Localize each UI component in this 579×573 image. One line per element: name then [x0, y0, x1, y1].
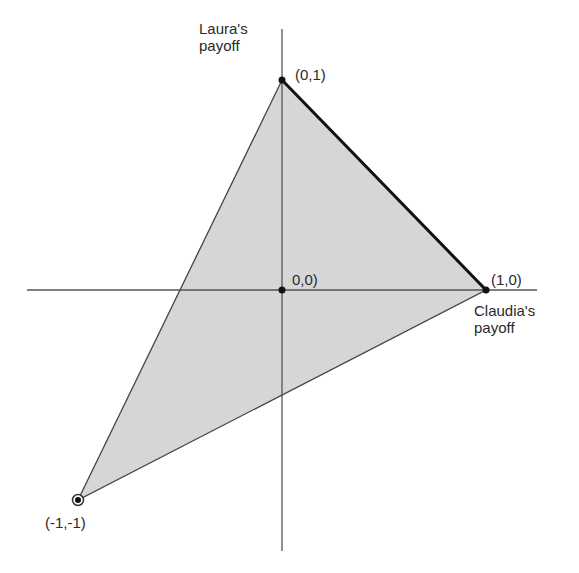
point-minus1-minus1	[75, 497, 81, 503]
x-axis-label-line1: Claudia's	[474, 302, 535, 319]
y-axis-label-line1: Laura's	[199, 20, 248, 37]
point-label-1-0: (1,0)	[491, 271, 522, 288]
point-label-origin: 0,0)	[292, 271, 318, 288]
point-label-minus1-minus1: (-1,-1)	[45, 514, 86, 531]
point-1-0	[483, 287, 490, 294]
point-label-0-1: (0,1)	[295, 66, 326, 83]
point-0-1	[279, 77, 286, 84]
point-origin	[279, 287, 286, 294]
y-axis-label-line2: payoff	[199, 37, 240, 54]
x-axis-label-line2: payoff	[474, 319, 515, 336]
